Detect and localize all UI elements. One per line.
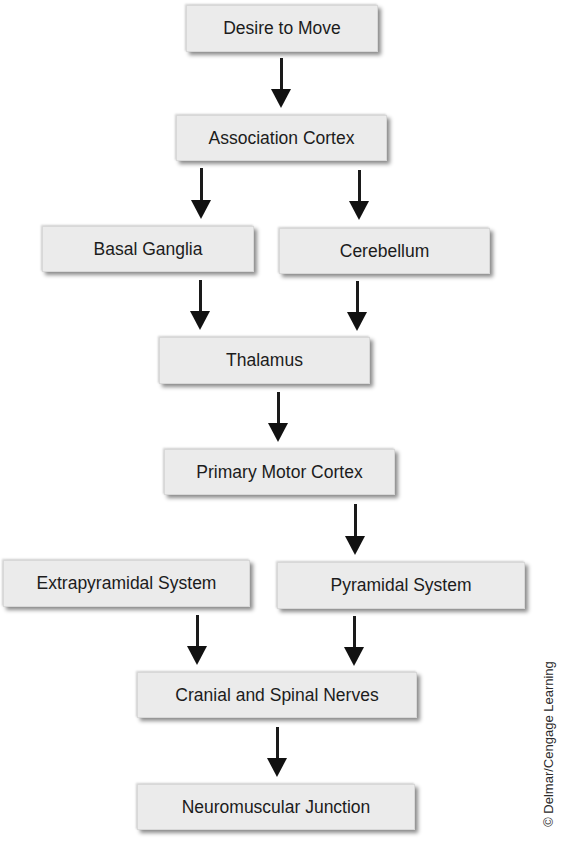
arrow-down-icon (345, 504, 365, 555)
node-desire-to-move: Desire to Move (186, 5, 378, 52)
node-thalamus: Thalamus (159, 337, 370, 384)
node-pyramidal-system: Pyramidal System (277, 562, 525, 609)
node-label: Basal Ganglia (94, 239, 203, 260)
arrow-down-icon (267, 727, 287, 777)
node-cranial-and-spinal-nerves: Cranial and Spinal Nerves (137, 672, 417, 718)
node-primary-motor-cortex: Primary Motor Cortex (164, 449, 395, 495)
arrow-down-icon (344, 616, 364, 666)
node-extrapyramidal-system: Extrapyramidal System (3, 560, 250, 607)
node-label: Neuromuscular Junction (182, 797, 371, 818)
copyright-credit: © Delmar/Cengage Learning (541, 661, 556, 827)
node-label: Desire to Move (223, 18, 341, 39)
node-label: Cranial and Spinal Nerves (175, 685, 378, 706)
arrow-down-icon (191, 168, 211, 219)
node-basal-ganglia: Basal Ganglia (42, 226, 254, 272)
node-neuromuscular-junction: Neuromuscular Junction (137, 784, 415, 830)
arrow-down-icon (349, 170, 369, 220)
arrow-down-icon (271, 58, 291, 108)
arrow-down-icon (187, 615, 207, 665)
node-label: Extrapyramidal System (37, 573, 217, 594)
arrow-down-icon (268, 392, 288, 442)
node-association-cortex: Association Cortex (176, 115, 387, 161)
arrow-down-icon (347, 281, 367, 331)
arrow-down-icon (190, 280, 210, 330)
node-label: Primary Motor Cortex (196, 462, 362, 483)
node-label: Thalamus (226, 350, 303, 371)
node-label: Association Cortex (209, 128, 355, 149)
node-label: Cerebellum (340, 241, 429, 262)
node-cerebellum: Cerebellum (279, 228, 490, 274)
node-label: Pyramidal System (330, 575, 471, 596)
